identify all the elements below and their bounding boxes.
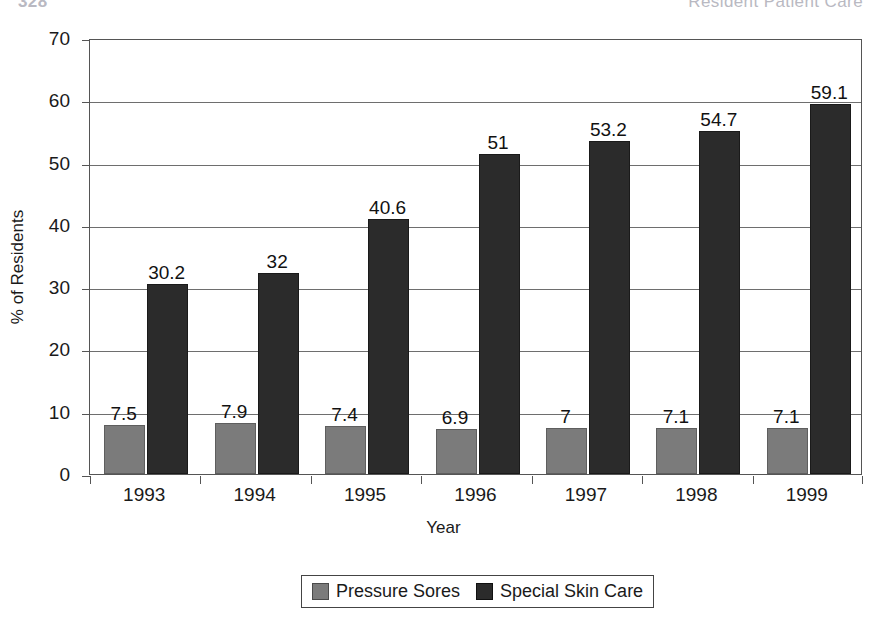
y-axis-tick-label: 20 [49, 339, 70, 361]
x-axis-tick-label: 1993 [123, 484, 165, 506]
bar-pressure-sores-1997 [546, 428, 587, 474]
y-axis-tick [82, 227, 90, 228]
y-axis-tick-label: 10 [49, 402, 70, 424]
legend-swatch-icon [312, 583, 329, 600]
bar-special-skin-care-1993 [147, 284, 188, 474]
plot-area: 7.530.27.9327.440.66.951753.27.154.77.15… [89, 39, 862, 475]
y-axis-tick-label: 30 [49, 277, 70, 299]
y-axis-tick [82, 476, 90, 477]
legend-label: Pressure Sores [336, 581, 460, 602]
y-axis-tick [82, 289, 90, 290]
bar-special-skin-care-1994 [258, 273, 299, 474]
y-axis-tick-label: 40 [49, 215, 70, 237]
y-axis-tick [82, 414, 90, 415]
y-axis-tick [82, 102, 90, 103]
bar-value-label: 53.2 [590, 119, 627, 141]
bar-value-label: 7.9 [221, 401, 247, 423]
x-axis-tick [311, 476, 312, 484]
bar-pressure-sores-1998 [656, 428, 697, 474]
bar-special-skin-care-1995 [368, 219, 409, 474]
gridline [90, 289, 861, 290]
x-axis-tick [200, 476, 201, 484]
bar-special-skin-care-1999 [810, 104, 851, 474]
legend-label: Special Skin Care [500, 581, 643, 602]
bar-pressure-sores-1999 [767, 428, 808, 474]
x-axis-tick-label: 1999 [786, 484, 828, 506]
bar-pressure-sores-1994 [215, 423, 256, 474]
bar-value-label: 6.9 [442, 407, 468, 429]
gridline [90, 227, 861, 228]
x-axis-tick-label: 1995 [344, 484, 386, 506]
x-axis: 1993199419951996199719981999 [89, 484, 862, 514]
x-axis-tick [642, 476, 643, 484]
x-axis-title: Year [0, 518, 887, 538]
y-axis-tick-label: 60 [49, 90, 70, 112]
y-axis-title: % of Residents [8, 187, 28, 347]
chart-legend: Pressure SoresSpecial Skin Care [301, 575, 654, 608]
x-axis-tick [862, 476, 863, 484]
gridline [90, 351, 861, 352]
bar-value-label: 30.2 [148, 262, 185, 284]
bar-value-label: 51 [487, 132, 508, 154]
bar-value-label: 54.7 [700, 109, 737, 131]
y-axis-tick-label: 50 [49, 153, 70, 175]
legend-item-special-skin-care: Special Skin Care [476, 581, 643, 602]
y-axis-tick-label: 70 [49, 28, 70, 50]
bar-pressure-sores-1996 [436, 429, 477, 474]
x-axis-tick-label: 1997 [565, 484, 607, 506]
bar-value-label: 40.6 [369, 197, 406, 219]
bar-chart-figure: 010203040506070 % of Residents 7.530.27.… [0, 0, 887, 628]
bar-value-label: 7.1 [663, 406, 689, 428]
x-axis-tick [532, 476, 533, 484]
bar-value-label: 7.4 [331, 404, 357, 426]
bar-pressure-sores-1993 [104, 425, 145, 474]
y-axis-tick-label: 0 [59, 464, 70, 486]
bar-pressure-sores-1995 [325, 426, 366, 474]
x-axis-tick [421, 476, 422, 484]
bar-value-label: 7 [560, 406, 571, 428]
x-axis-tick [753, 476, 754, 484]
bar-value-label: 59.1 [811, 82, 848, 104]
x-axis-tick-label: 1996 [454, 484, 496, 506]
bar-special-skin-care-1998 [699, 131, 740, 474]
legend-swatch-icon [476, 583, 493, 600]
bar-value-label: 7.5 [110, 403, 136, 425]
gridline [90, 102, 861, 103]
bar-value-label: 7.1 [773, 406, 799, 428]
x-axis-tick [90, 476, 91, 484]
bar-special-skin-care-1997 [589, 141, 630, 474]
x-axis-tick-label: 1998 [675, 484, 717, 506]
gridline [90, 414, 861, 415]
x-axis-tick-label: 1994 [234, 484, 276, 506]
bar-value-label: 32 [267, 251, 288, 273]
y-axis-tick [82, 165, 90, 166]
legend-item-pressure-sores: Pressure Sores [312, 581, 460, 602]
bar-special-skin-care-1996 [479, 154, 520, 474]
y-axis-tick [82, 351, 90, 352]
gridline [90, 165, 861, 166]
y-axis-tick [82, 40, 90, 41]
